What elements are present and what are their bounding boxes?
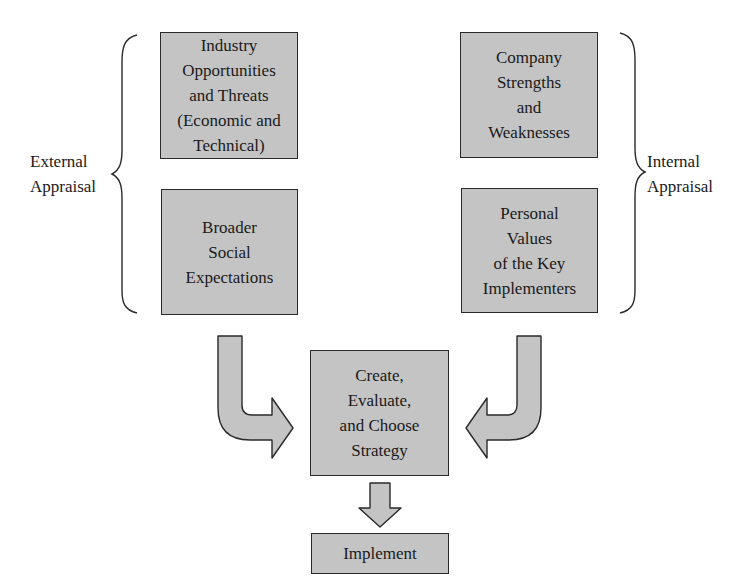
box-text-line: (Economic and bbox=[177, 108, 280, 133]
box-text-line: Expectations bbox=[186, 265, 274, 290]
box-text-line: Values bbox=[507, 226, 552, 251]
industry-opportunities-box: Industry Opportunities and Threats (Econ… bbox=[160, 32, 298, 159]
box-text-line: and Threats bbox=[189, 83, 268, 108]
box-text-line: Implementers bbox=[483, 276, 576, 301]
box-text-line: Industry bbox=[201, 33, 258, 58]
label-line: Internal bbox=[647, 149, 713, 174]
down-arrow-icon bbox=[359, 483, 401, 527]
box-text-line: Opportunities bbox=[182, 58, 276, 83]
box-text-line: Evaluate, bbox=[348, 388, 412, 413]
box-text-line: Strategy bbox=[351, 438, 408, 463]
box-text-line: Create, bbox=[355, 363, 404, 388]
box-text-line: Company bbox=[496, 45, 562, 70]
label-line: Appraisal bbox=[647, 174, 713, 199]
company-strengths-box: Company Strengths and Weaknesses bbox=[460, 32, 598, 158]
box-text-line: Implement bbox=[343, 541, 417, 566]
box-text-line: Technical) bbox=[193, 133, 265, 158]
social-expectations-box: Broader Social Expectations bbox=[161, 189, 298, 315]
box-text-line: Weaknesses bbox=[488, 120, 570, 145]
internal-appraisal-label: Internal Appraisal bbox=[647, 149, 713, 199]
right-brace-icon bbox=[620, 33, 645, 313]
box-text-line: Broader bbox=[202, 215, 257, 240]
label-line: External bbox=[30, 149, 96, 174]
implement-box: Implement bbox=[311, 533, 449, 574]
external-appraisal-label: External Appraisal bbox=[30, 149, 96, 199]
box-text-line: of the Key bbox=[494, 251, 566, 276]
choose-strategy-box: Create, Evaluate, and Choose Strategy bbox=[310, 350, 449, 476]
box-text-line: Social bbox=[208, 240, 251, 265]
box-text-line: Strengths bbox=[497, 70, 561, 95]
box-text-line: and bbox=[517, 95, 542, 120]
left-brace-icon bbox=[112, 35, 137, 313]
box-text-line: Personal bbox=[500, 201, 559, 226]
personal-values-box: Personal Values of the Key Implementers bbox=[461, 188, 598, 313]
right-bent-arrow-icon bbox=[466, 336, 541, 458]
connectors-layer bbox=[0, 0, 745, 585]
box-text-line: and Choose bbox=[340, 413, 420, 438]
left-bent-arrow-icon bbox=[218, 336, 293, 458]
label-line: Appraisal bbox=[30, 174, 96, 199]
